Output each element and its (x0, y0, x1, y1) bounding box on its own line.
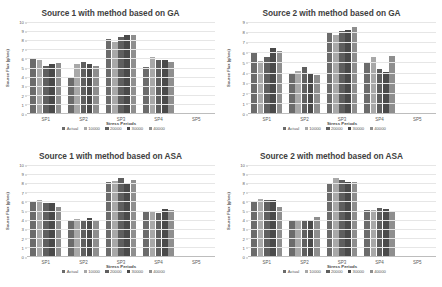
y-tick-label: 8 (243, 30, 245, 35)
legend-label: 40000 (374, 269, 386, 274)
bar[interactable] (162, 60, 168, 113)
gridline (27, 201, 215, 202)
legend-swatch-icon (283, 270, 286, 273)
figure-grid: Source 1 with method based on GA Source … (0, 0, 442, 287)
bar[interactable] (377, 208, 383, 256)
bar[interactable] (389, 56, 395, 113)
bar[interactable] (364, 62, 370, 113)
bar[interactable] (314, 75, 320, 113)
legend-item[interactable]: 10000 (305, 269, 321, 274)
bar[interactable] (87, 64, 93, 113)
bar[interactable] (339, 180, 345, 256)
bar[interactable] (143, 211, 149, 257)
bar[interactable] (302, 67, 308, 114)
gridline (27, 183, 215, 184)
bar[interactable] (43, 66, 49, 113)
gridline (27, 238, 215, 239)
bar[interactable] (74, 64, 80, 113)
gridline (27, 165, 215, 166)
bar[interactable] (168, 210, 174, 256)
plot-area: Source Flux (g/sec) 012345678910 SP1SP2S… (4, 22, 215, 114)
bar[interactable] (162, 209, 168, 256)
bar[interactable] (364, 210, 370, 256)
chart-legend: Actual10000200003000040000 (237, 269, 432, 274)
legend-item[interactable]: 20000 (105, 269, 121, 274)
gridline (27, 229, 215, 230)
y-tick-label: 1 (22, 245, 24, 250)
legend-item[interactable]: 30000 (127, 269, 143, 274)
gridline (248, 73, 436, 74)
bar[interactable] (258, 199, 264, 256)
legend-item[interactable]: 30000 (127, 126, 143, 131)
bar[interactable] (377, 69, 383, 113)
bar[interactable] (295, 71, 301, 113)
bar[interactable] (150, 211, 156, 257)
bar[interactable] (124, 35, 130, 113)
bar[interactable] (118, 178, 124, 256)
bar[interactable] (112, 42, 118, 113)
y-tick-label: 9 (243, 172, 245, 177)
bar[interactable] (56, 207, 62, 256)
gridline (248, 183, 436, 184)
legend-label: 30000 (353, 126, 365, 131)
legend-item[interactable]: 10000 (305, 126, 321, 131)
bar[interactable] (352, 27, 358, 113)
bar[interactable] (333, 178, 339, 256)
y-tick-label: 6 (243, 50, 245, 55)
bar[interactable] (168, 62, 174, 113)
bar[interactable] (37, 60, 43, 113)
bar[interactable] (43, 203, 49, 256)
chart-panel-3: Source 2 with method based on ASA Source… (221, 143, 442, 287)
bar[interactable] (258, 61, 264, 113)
legend-item[interactable]: 20000 (105, 126, 121, 131)
bar-group (248, 22, 286, 113)
bar[interactable] (143, 67, 149, 113)
bar[interactable] (131, 35, 137, 113)
legend-item[interactable]: 30000 (348, 126, 364, 131)
legend-swatch-icon (62, 127, 65, 130)
legend-item[interactable]: 20000 (326, 126, 342, 131)
legend-item[interactable]: Actual (62, 269, 78, 274)
bar-group (323, 22, 361, 113)
bar[interactable] (56, 63, 62, 113)
gridline (27, 220, 215, 221)
legend-item[interactable]: 20000 (326, 269, 342, 274)
legend-item[interactable]: Actual (283, 126, 299, 131)
bar[interactable] (93, 66, 99, 113)
bar[interactable] (156, 60, 162, 113)
bar[interactable] (371, 57, 377, 113)
bar[interactable] (49, 203, 55, 256)
bar[interactable] (118, 37, 124, 113)
bar[interactable] (333, 35, 339, 113)
bar[interactable] (93, 221, 99, 256)
bar[interactable] (383, 209, 389, 256)
legend-item[interactable]: 40000 (370, 269, 386, 274)
bar[interactable] (314, 217, 320, 256)
legend-item[interactable]: Actual (62, 126, 78, 131)
bar[interactable] (49, 64, 55, 113)
bar[interactable] (264, 57, 270, 113)
legend-item[interactable]: Actual (283, 269, 299, 274)
legend-item[interactable]: 40000 (149, 126, 165, 131)
bar[interactable] (302, 221, 308, 256)
bar[interactable] (81, 62, 87, 113)
gridline (248, 174, 436, 175)
legend-item[interactable]: 30000 (348, 269, 364, 274)
legend-swatch-icon (127, 270, 130, 273)
y-tick-label: 2 (22, 236, 24, 241)
bar[interactable] (371, 210, 377, 256)
bar[interactable] (277, 207, 283, 256)
y-axis-ticks: 012345678910 (12, 22, 26, 114)
y-axis-ticks: 012345678910 (233, 165, 247, 257)
y-tick-label: 0 (22, 112, 24, 117)
legend-swatch-icon (105, 270, 108, 273)
y-tick-label: 6 (22, 56, 24, 61)
legend-item[interactable]: 40000 (149, 269, 165, 274)
y-tick-label: 9 (22, 172, 24, 177)
chart-legend: Actual10000200003000040000 (16, 126, 211, 131)
legend-item[interactable]: 10000 (84, 269, 100, 274)
gridline (248, 83, 436, 84)
legend-item[interactable]: 40000 (370, 126, 386, 131)
gridline (27, 211, 215, 212)
legend-item[interactable]: 10000 (84, 126, 100, 131)
